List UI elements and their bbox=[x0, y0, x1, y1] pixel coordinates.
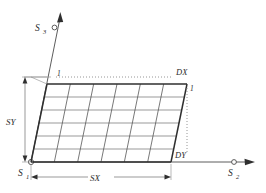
dim-sy-arrow-top bbox=[23, 77, 28, 84]
dim-sx-arrow-left bbox=[31, 175, 38, 180]
offset-dy-label: DY bbox=[174, 150, 187, 160]
axis-s2-arrowhead bbox=[245, 159, 256, 165]
dim-sx-label: SX bbox=[90, 173, 101, 183]
axis-s2-node-circle bbox=[232, 160, 237, 165]
axis-s3-label: S bbox=[35, 23, 40, 33]
axis-s3-arrowhead bbox=[57, 12, 63, 23]
dim-sy-arrow-bottom bbox=[23, 156, 28, 163]
offset-dx-leader-group bbox=[24, 77, 172, 84]
corner-mark-top-left-label: 1 bbox=[57, 69, 61, 78]
dim-sx-group bbox=[31, 164, 171, 184]
origin-s1-label: S bbox=[18, 168, 23, 178]
dim-sy-label: SY bbox=[6, 117, 17, 127]
axis-s3-node-circle bbox=[52, 25, 57, 30]
axis-s3-subscript: 3 bbox=[42, 28, 47, 35]
offset-dx-tick bbox=[31, 77, 47, 84]
diagram-canvas: S 3 S 2 S 1 SY SX DX DY 1 1 bbox=[0, 0, 266, 193]
technical-diagram: S 3 S 2 S 1 SY SX DX DY 1 1 bbox=[0, 0, 266, 193]
offset-dx-label: DX bbox=[175, 67, 188, 77]
axis-s2-label: S bbox=[228, 168, 233, 178]
axis-s2-subscript: 2 bbox=[236, 173, 240, 180]
dim-sx-arrow-right bbox=[165, 175, 172, 180]
grid-surface bbox=[31, 84, 187, 162]
origin-s1-subscript: 1 bbox=[26, 173, 29, 180]
corner-mark-top-right-label: 1 bbox=[190, 84, 194, 93]
